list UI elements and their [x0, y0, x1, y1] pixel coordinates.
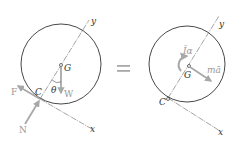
right-y-axis [168, 16, 219, 98]
normal-label: N [19, 125, 27, 135]
left-x-label: x [90, 124, 95, 134]
right-contact-point [167, 98, 170, 101]
weight-label: W [64, 89, 74, 99]
right-kinetic-diagram: y x G C Īα mā [149, 16, 225, 137]
right-c-label: C [159, 97, 166, 107]
right-y-label: y [218, 19, 225, 29]
free-body-diagram: y x G C θ W F N y x G C Īα mā [0, 0, 240, 144]
right-x-axis [168, 98, 220, 131]
theta-arc [52, 80, 61, 83]
moment-label: Īα [182, 45, 193, 56]
left-center-point [60, 64, 63, 67]
normal-arrow [25, 101, 39, 124]
inertia-force-label: mā [207, 65, 221, 75]
friction-label: F [11, 87, 17, 97]
equals-sign [117, 65, 130, 72]
left-c-label: C [35, 87, 42, 97]
left-g-label: G [64, 63, 71, 73]
theta-label: θ [51, 85, 57, 95]
left-y-label: y [90, 16, 97, 26]
right-g-label: G [184, 70, 191, 80]
left-fbd: y x G C θ W F N [11, 16, 101, 135]
moment-arc [179, 56, 187, 71]
right-x-label: x [218, 127, 223, 137]
left-y-axis [40, 20, 89, 99]
right-disk [149, 26, 225, 102]
